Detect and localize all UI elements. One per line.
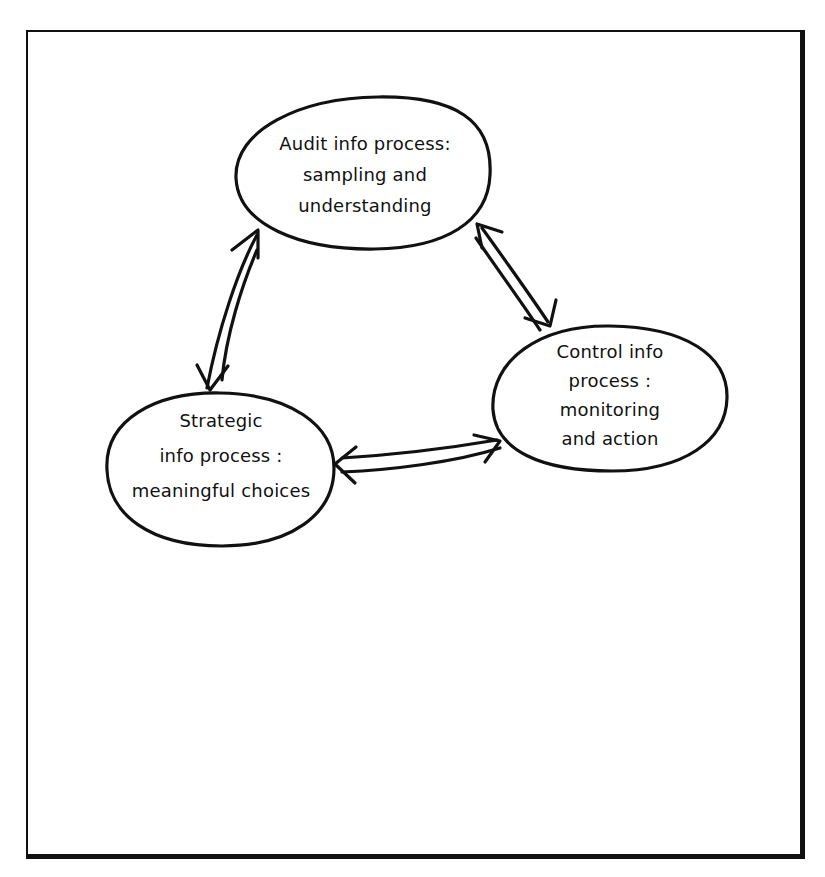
strategic-node-line-2: info process : — [112, 438, 330, 473]
strategic-node-line-1: Strategic — [112, 403, 330, 438]
edge-audit-control — [476, 224, 556, 330]
arrowhead-right-icon — [474, 435, 500, 462]
strategic-node-line-3: meaningful choices — [112, 473, 330, 508]
edge-strategic-audit — [197, 230, 258, 390]
audit-node-line-1: Audit info process: — [250, 128, 480, 159]
control-node: Control info process : monitoring and ac… — [520, 337, 700, 453]
control-node-line-1: Control info — [520, 337, 700, 366]
audit-node: Audit info process: sampling and underst… — [250, 128, 480, 221]
audit-node-line-2: sampling and — [250, 159, 480, 190]
edge-strategic-control — [335, 435, 500, 483]
strategic-node: Strategic info process : meaningful choi… — [112, 403, 330, 508]
audit-node-line-3: understanding — [250, 190, 480, 221]
control-node-line-3: monitoring — [520, 395, 700, 424]
arrowhead-left-icon — [335, 447, 356, 483]
control-node-line-2: process : — [520, 366, 700, 395]
control-node-line-4: and action — [520, 424, 700, 453]
